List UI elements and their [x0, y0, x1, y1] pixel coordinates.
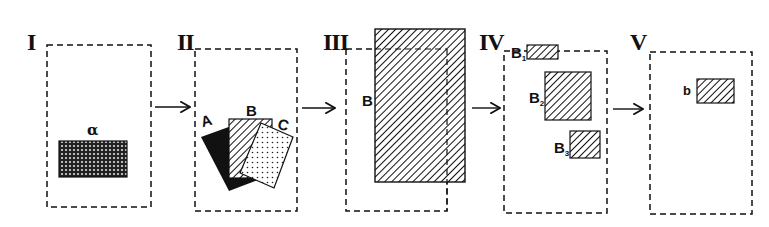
panel-v-frame — [650, 52, 752, 214]
process-diagram: I II III IV V α A B C B B1 B2 B3 b — [0, 0, 769, 227]
shape-b1-label: B1 — [511, 45, 526, 63]
shape-b3 — [570, 131, 600, 158]
shape-b-small — [697, 79, 734, 103]
shape-b1 — [527, 45, 558, 59]
shape-b-small-label: b — [683, 84, 691, 97]
shape-b-enlarged-label: B — [362, 93, 373, 108]
shape-b3-label: B3 — [554, 140, 569, 158]
panel-ii-label: II — [177, 30, 194, 54]
panel-iii-label: III — [323, 30, 348, 54]
alpha-region — [59, 141, 127, 177]
panel-iv-label: IV — [479, 30, 504, 54]
shape-b-label: B — [246, 103, 257, 118]
shape-b-enlarged — [375, 29, 465, 182]
shape-b2 — [545, 72, 591, 120]
shape-b2-label: B2 — [529, 90, 544, 108]
panel-i-label: I — [27, 30, 35, 54]
diagram-canvas — [0, 0, 769, 227]
panel-v-label: V — [630, 30, 646, 54]
alpha-label: α — [87, 123, 99, 138]
panel-i-frame — [47, 45, 151, 207]
